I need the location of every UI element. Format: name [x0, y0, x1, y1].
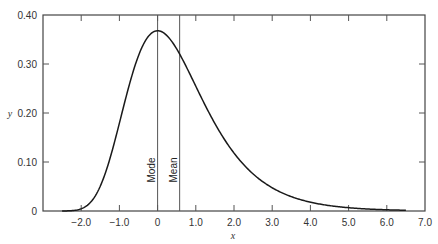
- x-axis-label: x: [230, 230, 236, 241]
- y-axis-label: y: [7, 108, 13, 119]
- gumbel-density-chart: −2.0−1.001.02.03.04.05.06.07.000.100.200…: [0, 0, 438, 244]
- x-tick-label: 6.0: [380, 217, 394, 228]
- x-tick-label: −2.0: [71, 217, 91, 228]
- y-tick-label: 0: [31, 206, 37, 217]
- x-tick-label: −1.0: [110, 217, 130, 228]
- y-tick-label: 0.30: [18, 59, 38, 70]
- annotation-label-mode: Mode: [146, 157, 157, 182]
- y-tick-label: 0.20: [18, 108, 38, 119]
- annotation-label-mean: Mean: [168, 157, 179, 182]
- y-tick-label: 0.10: [18, 157, 38, 168]
- y-tick-label: 0.40: [18, 10, 38, 21]
- plot-frame: [43, 15, 425, 211]
- x-tick-label: 0: [155, 217, 161, 228]
- x-tick-label: 2.0: [227, 217, 241, 228]
- density-curve: [62, 31, 406, 211]
- x-tick-label: 4.0: [303, 217, 317, 228]
- x-tick-label: 3.0: [265, 217, 279, 228]
- x-tick-label: 1.0: [189, 217, 203, 228]
- x-tick-label: 5.0: [342, 217, 356, 228]
- x-tick-label: 7.0: [418, 217, 432, 228]
